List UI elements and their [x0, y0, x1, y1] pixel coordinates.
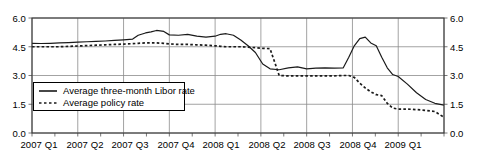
legend-label-libor: Average three-month Libor rate — [63, 85, 195, 97]
plot-area — [0, 0, 487, 156]
legend-item-policy: Average policy rate — [38, 97, 179, 109]
solid-line-key — [38, 86, 58, 96]
legend-label-policy: Average policy rate — [63, 97, 144, 109]
legend-item-libor: Average three-month Libor rate — [38, 85, 179, 97]
chart-container: 6.0 4.5 3.0 1.5 0.0 6.0 4.5 3.0 1.5 0.0 … — [0, 0, 487, 156]
chart-legend: Average three-month Libor rate Average p… — [33, 82, 185, 111]
dotted-line-key — [38, 98, 58, 108]
